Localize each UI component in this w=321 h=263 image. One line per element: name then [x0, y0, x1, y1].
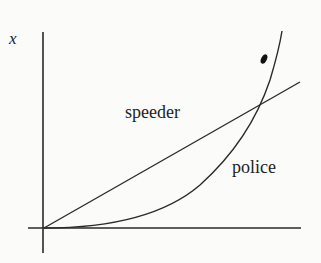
speeder-label: speeder	[125, 102, 180, 122]
speeder-police-diagram: x speeder police	[0, 0, 321, 263]
axis-label-x: x	[8, 29, 17, 48]
dot-marker	[259, 53, 268, 64]
police-label: police	[232, 157, 276, 177]
police-curve	[44, 31, 282, 228]
